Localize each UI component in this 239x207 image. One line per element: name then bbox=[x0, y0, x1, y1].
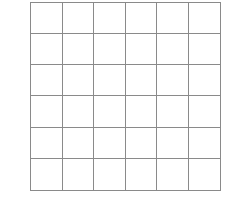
grid-cell bbox=[189, 65, 221, 96]
grid-cell bbox=[189, 159, 221, 190]
grid-cell bbox=[157, 159, 189, 190]
grid-cell bbox=[94, 96, 126, 127]
grid-cell bbox=[157, 3, 189, 34]
grid-cell bbox=[31, 34, 63, 65]
grid-cell bbox=[157, 96, 189, 127]
grid-cell bbox=[63, 159, 95, 190]
grid-cell bbox=[189, 128, 221, 159]
grid-cell bbox=[126, 159, 158, 190]
grid-cell bbox=[63, 3, 95, 34]
grid-cell bbox=[31, 3, 63, 34]
grid-cell bbox=[157, 65, 189, 96]
grid-cell bbox=[31, 159, 63, 190]
grid-cell bbox=[31, 96, 63, 127]
grid-cell bbox=[189, 96, 221, 127]
grid-cell bbox=[157, 34, 189, 65]
grid-cell bbox=[31, 65, 63, 96]
grid-cell bbox=[94, 65, 126, 96]
grid-cell bbox=[126, 65, 158, 96]
grid-cell bbox=[126, 96, 158, 127]
grid-cell bbox=[63, 128, 95, 159]
grid-cell bbox=[189, 3, 221, 34]
grid-cell bbox=[189, 34, 221, 65]
grid-cell bbox=[157, 128, 189, 159]
grid-cell bbox=[31, 128, 63, 159]
grid-cell bbox=[94, 159, 126, 190]
square-grid bbox=[30, 2, 221, 191]
grid-cell bbox=[94, 34, 126, 65]
grid-cell bbox=[94, 128, 126, 159]
grid-cell bbox=[126, 3, 158, 34]
grid-cell bbox=[63, 65, 95, 96]
grid-cell bbox=[126, 128, 158, 159]
grid-cell bbox=[63, 34, 95, 65]
grid-cell bbox=[94, 3, 126, 34]
grid-cell bbox=[126, 34, 158, 65]
grid-cell bbox=[63, 96, 95, 127]
